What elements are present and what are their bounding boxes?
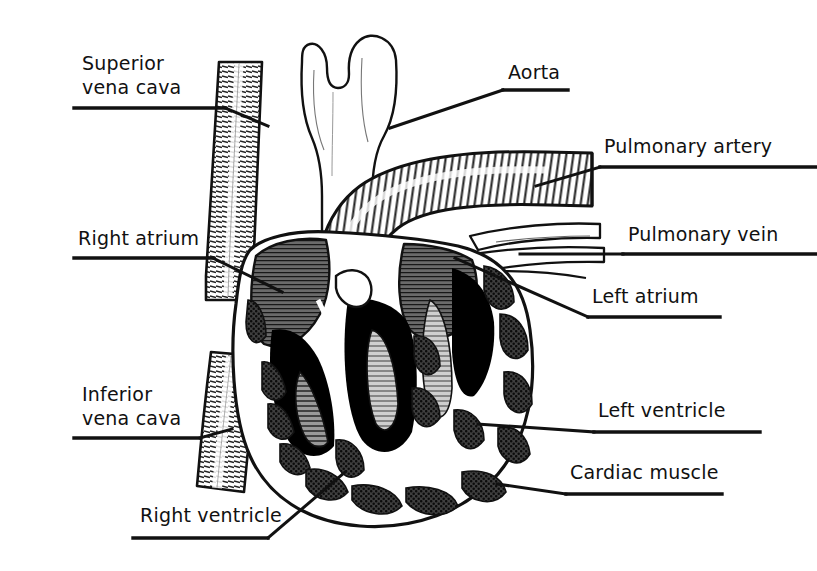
label-pulmonary-artery: Pulmonary artery bbox=[604, 136, 772, 157]
heart-diagram-figure: Cross-section of the human heart bbox=[0, 0, 817, 571]
label-leader-aorta bbox=[390, 90, 503, 128]
label-superior-vena-cava: Superiorvena cava bbox=[82, 52, 181, 100]
label-left-ventricle: Left ventricle bbox=[598, 400, 726, 421]
label-left-atrium: Left atrium bbox=[592, 286, 699, 307]
label-right-ventricle: Right ventricle bbox=[140, 505, 282, 526]
label-inferior-vena-cava: Inferiorvena cava bbox=[82, 383, 181, 431]
label-leader-cardiac-muscle bbox=[497, 484, 566, 494]
label-cardiac-muscle: Cardiac muscle bbox=[570, 462, 719, 483]
label-aorta: Aorta bbox=[508, 62, 560, 83]
label-right-atrium: Right atrium bbox=[78, 228, 199, 249]
label-pulmonary-vein: Pulmonary vein bbox=[628, 224, 778, 245]
